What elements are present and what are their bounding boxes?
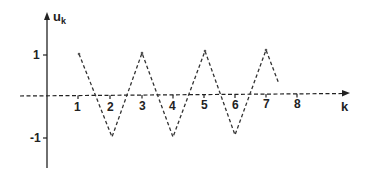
x-axis [20,94,344,97]
x-tick-label-5: 5 [201,98,208,112]
x-tick-label-7: 7 [263,97,270,111]
x-axis-label: k [341,99,349,114]
x-tick-label-6: 6 [232,98,239,112]
y-tick-label-1: 1 [33,48,40,62]
peak-markers [78,49,268,56]
y-axis-arrow-icon [44,12,50,20]
x-tick-label-2: 2 [107,100,114,114]
y-tick-label-neg1: -1 [30,131,41,145]
series-line [79,50,279,137]
x-tick-label-4: 4 [169,99,176,113]
x-tick-label-1: 1 [74,100,81,114]
y-axis-label: uk [53,9,67,26]
chart-canvas: uk k 1 -1 1 2 3 4 5 6 7 8 [0,0,365,178]
x-axis-arrow-icon [342,90,350,97]
x-tick-label-3: 3 [139,99,146,113]
x-tick-label-8: 8 [294,97,301,111]
